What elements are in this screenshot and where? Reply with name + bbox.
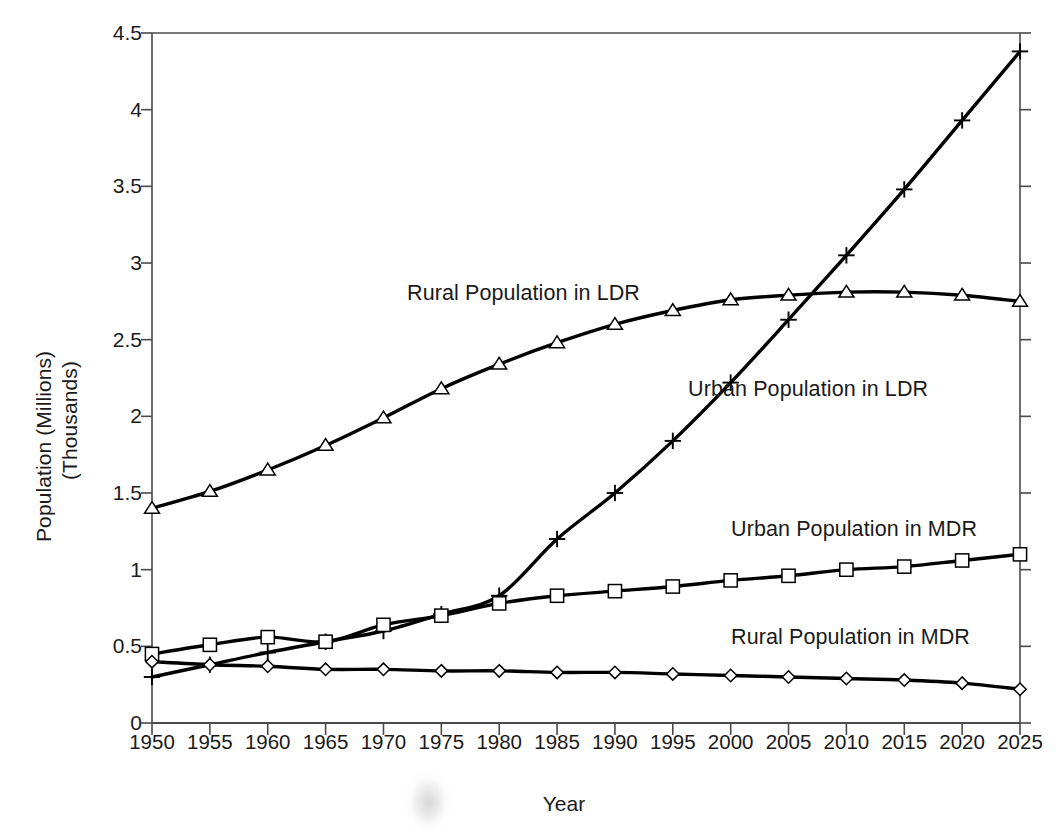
x-tick-label: 1995 [643, 732, 703, 753]
x-tick-label: 1990 [585, 732, 645, 753]
plot-area [0, 0, 1056, 834]
x-tick-label: 1985 [527, 732, 587, 753]
x-tick-label: 1980 [469, 732, 529, 753]
x-tick-label: 2025 [990, 732, 1050, 753]
x-tick-label: 1960 [238, 732, 298, 753]
series-markers [144, 43, 1028, 685]
series-line [152, 662, 1020, 690]
x-tick-label: 2020 [932, 732, 992, 753]
x-tick-label: 2000 [701, 732, 761, 753]
data-markers-group [144, 43, 1028, 695]
x-tick-label: 2010 [816, 732, 876, 753]
x-tick-label: 2015 [874, 732, 934, 753]
x-tick-label: 1970 [353, 732, 413, 753]
series-label-rural-ldr: Rural Population in LDR [407, 281, 640, 306]
x-axis-title-text: Year [543, 792, 585, 815]
data-series-group [152, 51, 1020, 689]
series-line [152, 51, 1020, 677]
chart-figure: Population (Millions) (Thousands) 00.511… [0, 0, 1056, 834]
x-tick-label: 1950 [122, 732, 182, 753]
x-tick-label: 1965 [296, 732, 356, 753]
series-label-rural-mdr: Rural Population in MDR [731, 625, 970, 650]
x-tick-label: 2005 [759, 732, 819, 753]
series-label-urban-ldr: Urban Population in LDR [688, 377, 928, 402]
x-axis-title: Year [0, 792, 1056, 816]
series-markers [146, 655, 1026, 695]
x-tick-label: 1955 [180, 732, 240, 753]
series-label-urban-mdr: Urban Population in MDR [731, 517, 977, 542]
x-tick-label: 1975 [411, 732, 471, 753]
